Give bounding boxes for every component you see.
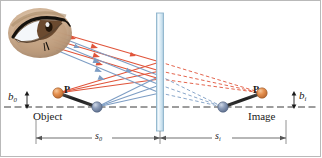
plane-mirror (157, 13, 164, 131)
image-distance-subscript: i (219, 135, 221, 142)
image-distance-dimension (160, 136, 286, 140)
object-point-sphere (53, 88, 63, 98)
figure-canvas: Object Image b0 bi P P s0 si (0, 0, 322, 158)
object-distance-subscript: 0 (99, 135, 102, 142)
eye-icon (8, 8, 72, 58)
object-point-label: P (64, 85, 70, 95)
object-height-label: b0 (8, 91, 17, 104)
image-height-label: bi (299, 90, 306, 103)
object-height-subscript: 0 (14, 96, 17, 103)
image-base-sphere (218, 102, 228, 112)
optics-ray-diagram (0, 0, 322, 158)
object-base-sphere (92, 102, 102, 112)
image-arrow (218, 88, 267, 112)
object-arrow (53, 88, 102, 112)
image-height-dimension (292, 91, 297, 109)
image-point-label: P (253, 85, 259, 95)
image-distance-label: si (215, 131, 221, 142)
object-distance-label: s0 (95, 131, 102, 142)
object-label: Object (33, 111, 62, 122)
object-height-dimension (25, 91, 30, 109)
image-label: Image (248, 111, 275, 122)
ray-direction-arrowheads (70, 35, 137, 82)
image-height-subscript: i (305, 95, 307, 102)
